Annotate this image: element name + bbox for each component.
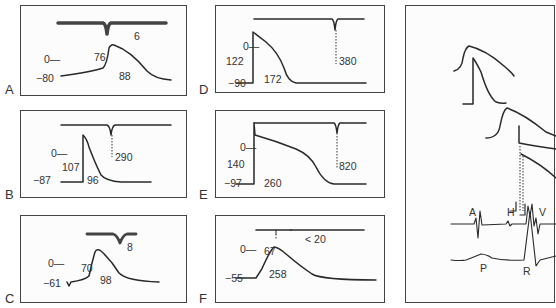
panel-b-atrial: 0— −87 107 96 290 [20, 110, 187, 198]
composite-traces [406, 6, 556, 304]
amplitude-label: 107 [62, 161, 80, 173]
composite-panel-sequence: A H V P R [405, 5, 555, 303]
resting-potential-label: −90 [228, 77, 246, 89]
panel-letter-d: D [199, 82, 208, 97]
amplitude-label: 122 [226, 55, 244, 67]
action-potential-trace-f [216, 216, 386, 304]
duration-label: 96 [87, 174, 99, 186]
panel-f-ventricle: 0— −55 67 258 < 20 [215, 215, 385, 303]
duration-label: 88 [119, 70, 131, 82]
panel-letter-f: F [199, 291, 207, 306]
panel-c-av-node: 0— −61 70 98 8 [20, 215, 187, 303]
duration-label: 260 [264, 177, 282, 189]
zero-mv-label: 0— [51, 147, 67, 159]
amplitude-label: 67 [264, 245, 276, 257]
conduction-velocity-label: 820 [339, 160, 357, 172]
conduction-velocity-label: 290 [115, 151, 133, 163]
duration-label: 258 [269, 268, 287, 280]
amplitude-label: 140 [227, 158, 245, 170]
ecg-p-label: P [480, 262, 487, 274]
panel-letter-b: B [5, 187, 14, 202]
his-h-label: H [507, 206, 515, 218]
zero-mv-label: 0— [44, 53, 60, 65]
panel-e-purkinje: 0— −97 140 260 820 [215, 110, 385, 198]
resting-potential-label: −80 [36, 72, 54, 84]
amplitude-label: 70 [81, 262, 93, 274]
resting-potential-label: −87 [33, 174, 51, 186]
resting-potential-label: −55 [225, 272, 243, 284]
ecg-r-label: R [523, 265, 531, 277]
amplitude-label: 76 [94, 51, 106, 63]
duration-label: 98 [100, 274, 112, 286]
panel-letter-c: C [5, 291, 14, 306]
zero-mv-label: 0— [240, 243, 256, 255]
resting-potential-label: −97 [224, 177, 242, 189]
conduction-velocity-label: 380 [339, 55, 357, 67]
conduction-velocity-label: 6 [134, 30, 140, 42]
panel-d-bundle: 0— −90 122 172 380 [215, 5, 385, 93]
zero-mv-label: 0— [48, 257, 64, 269]
panel-letter-e: E [199, 187, 208, 202]
action-potential-trace-c [21, 216, 188, 304]
panel-letter-a: A [5, 82, 14, 97]
zero-mv-label: 0— [240, 141, 256, 153]
duration-label: 172 [264, 73, 282, 85]
his-v-label: V [539, 206, 546, 218]
conduction-velocity-label: 8 [127, 241, 133, 253]
panel-a-sa-node: 0— −80 76 88 6 [20, 5, 187, 96]
his-atrial-label: A [469, 206, 476, 218]
resting-potential-label: −61 [43, 277, 61, 289]
conduction-velocity-label: < 20 [305, 233, 326, 245]
zero-mv-label: 0— [243, 40, 259, 52]
